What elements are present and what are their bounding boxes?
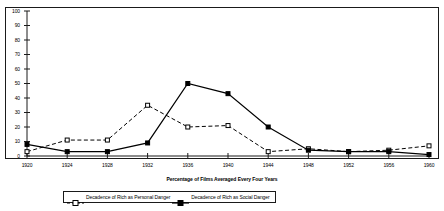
data-point xyxy=(65,150,69,154)
y-tick-label: 100 xyxy=(0,9,20,14)
data-point xyxy=(427,144,431,148)
x-tick-label: 1928 xyxy=(92,163,122,168)
data-point xyxy=(186,82,190,86)
y-tick-label: 60 xyxy=(0,67,20,72)
x-tick-label: 1944 xyxy=(253,163,283,168)
data-point xyxy=(105,138,109,142)
legend-entry-personal-danger: Decadence of Rich as Personal Danger xyxy=(67,191,172,203)
legend-swatch-solid-filled-square xyxy=(172,193,189,201)
y-tick-label: 0 xyxy=(0,154,20,159)
data-point xyxy=(306,148,310,152)
x-tick-label: 1924 xyxy=(52,163,82,168)
x-tick-label: 1920 xyxy=(12,163,42,168)
data-series-group xyxy=(25,82,431,157)
x-tick-label: 1932 xyxy=(133,163,163,168)
chart-legend: Decadence of Rich as Personal Danger Dec… xyxy=(63,191,276,203)
y-tick-label: 30 xyxy=(0,110,20,115)
data-point xyxy=(25,142,29,146)
x-tick-label: 1940 xyxy=(213,163,243,168)
x-tick-label: 1936 xyxy=(173,163,203,168)
data-point xyxy=(347,150,351,154)
series-line-0 xyxy=(27,105,429,151)
y-tick-label: 10 xyxy=(0,139,20,144)
data-point xyxy=(65,138,69,142)
y-tick-label: 40 xyxy=(0,96,20,101)
y-tick-label: 80 xyxy=(0,38,20,43)
data-point xyxy=(186,125,190,129)
data-point xyxy=(105,150,109,154)
y-tick-label: 20 xyxy=(0,125,20,130)
x-tick-label: 1948 xyxy=(293,163,323,168)
x-tick-label: 1956 xyxy=(374,163,404,168)
chart-container: 0102030405060708090100 19201924192819321… xyxy=(0,0,444,211)
data-point xyxy=(226,124,230,128)
legend-label-personal-danger: Decadence of Rich as Personal Danger xyxy=(84,194,172,200)
data-point xyxy=(226,92,230,96)
legend-swatch-dashed-open-square xyxy=(67,193,84,201)
legend-entry-social-danger: Decadence of Rich as Social Danger xyxy=(172,191,271,203)
data-point xyxy=(266,125,270,129)
data-point xyxy=(25,150,29,154)
y-tick-label: 50 xyxy=(0,81,20,86)
x-tick-label: 1952 xyxy=(334,163,364,168)
data-point xyxy=(146,141,150,145)
axes-group xyxy=(27,11,429,156)
data-point xyxy=(387,150,391,154)
legend-label-social-danger: Decadence of Rich as Social Danger xyxy=(189,194,271,200)
x-tick-label: 1960 xyxy=(414,163,444,168)
data-point xyxy=(266,150,270,154)
data-point xyxy=(427,153,431,157)
data-point xyxy=(146,103,150,107)
y-tick-label: 70 xyxy=(0,52,20,57)
x-axis-title: Percentage of Films Averaged Every Four … xyxy=(0,176,444,182)
y-tick-label: 90 xyxy=(0,23,20,28)
